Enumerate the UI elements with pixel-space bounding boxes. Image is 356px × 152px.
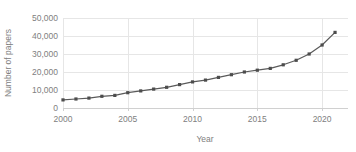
y-tick-label: 50,000 [32, 13, 58, 23]
data-point-marker [61, 98, 64, 101]
data-point-marker [269, 67, 272, 70]
data-point-marker [243, 70, 246, 73]
data-point-marker [87, 97, 90, 100]
data-point-marker [256, 69, 259, 72]
x-axis-title: Year [196, 134, 213, 144]
x-axis-tick-labels: 20002005201020152020 [54, 114, 332, 124]
data-point-marker [308, 52, 311, 55]
data-point-marker [204, 79, 207, 82]
line-chart: 010,00020,00030,00040,00050,000 20002005… [0, 0, 356, 152]
data-point-marker [139, 89, 142, 92]
y-axis-tick-labels: 010,00020,00030,00040,00050,000 [32, 13, 58, 113]
data-point-marker [178, 83, 181, 86]
data-point-marker [282, 63, 285, 66]
chart-container: 010,00020,00030,00040,00050,000 20002005… [0, 0, 356, 152]
data-point-marker [113, 94, 116, 97]
x-tick-label: 2000 [54, 114, 73, 124]
y-tick-label: 20,000 [32, 67, 58, 77]
data-point-marker [217, 76, 220, 79]
x-tick-label: 2020 [313, 114, 332, 124]
data-point-marker [320, 43, 323, 46]
x-tick-label: 2015 [248, 114, 267, 124]
data-point-marker [100, 95, 103, 98]
y-axis-title: Number of papers [3, 29, 13, 97]
data-point-marker [74, 97, 77, 100]
data-point-marker [126, 91, 129, 94]
data-point-marker [191, 80, 194, 83]
x-tick-label: 2005 [118, 114, 137, 124]
y-tick-label: 10,000 [32, 85, 58, 95]
y-tick-label: 40,000 [32, 31, 58, 41]
data-point-marker [152, 88, 155, 91]
data-point-marker [230, 73, 233, 76]
y-tick-label: 30,000 [32, 49, 58, 59]
data-point-marker [295, 59, 298, 62]
x-tick-label: 2010 [183, 114, 202, 124]
data-point-marker [333, 31, 336, 34]
y-tick-label: 0 [53, 103, 58, 113]
plot-area-background [63, 18, 348, 108]
data-point-marker [165, 86, 168, 89]
